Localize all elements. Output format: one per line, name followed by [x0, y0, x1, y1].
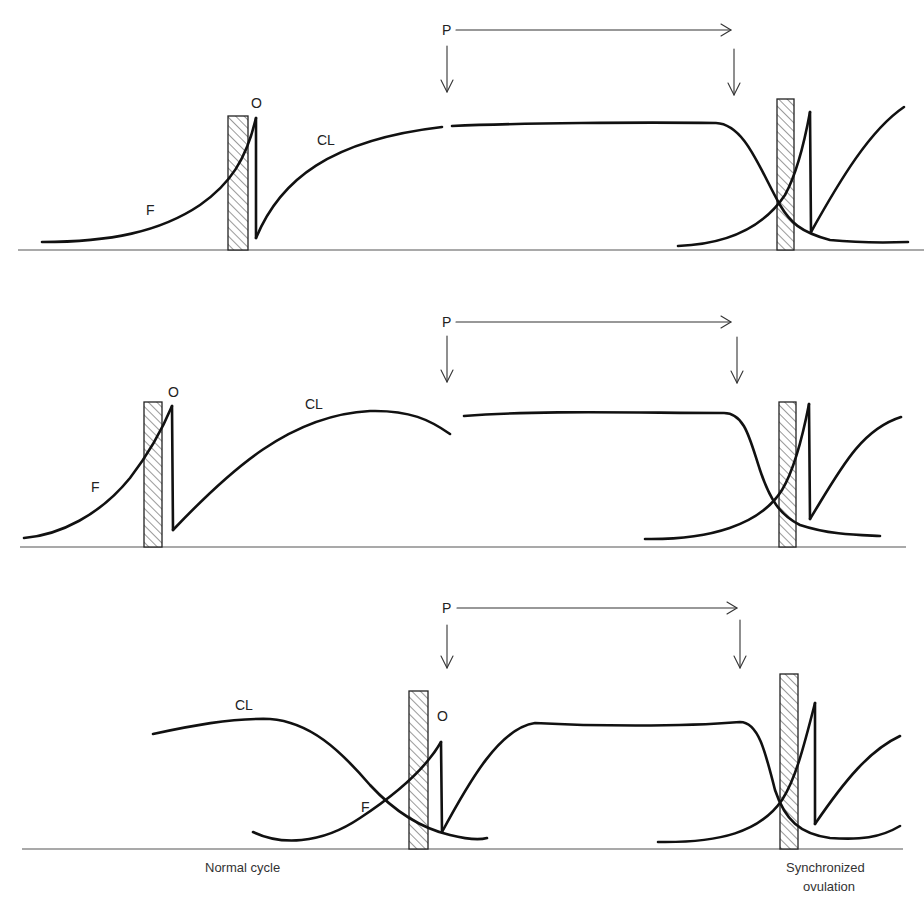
panel-3-o-label: O — [437, 708, 448, 724]
panel-3-new-cl-curve — [815, 736, 900, 824]
panel-3-old-cl-curve — [153, 719, 487, 839]
panel-1-synchronized-ovulation-drop — [810, 112, 811, 232]
panel-2-f-label: F — [91, 479, 100, 495]
synchronized-ovulation-caption-line1: Synchronized — [786, 860, 865, 875]
panel-2-oestrus-bar-1 — [144, 402, 162, 547]
panel-3: P O CL F Normal cycle Synchronized ovula… — [22, 600, 903, 894]
panel-2: P O CL F — [20, 314, 906, 547]
panel-1-f-label: F — [146, 202, 155, 218]
panel-1-cl-curve — [256, 127, 442, 238]
panel-3-p-label: P — [442, 600, 451, 616]
panel-2-new-cl-curve — [810, 417, 901, 519]
panel-2-p-label: P — [442, 314, 451, 330]
panel-1-p-label: P — [442, 22, 451, 38]
ovulation-synchronization-diagram: P O CL F P — [0, 0, 924, 912]
panel-1-oestrus-bar-2 — [777, 99, 794, 250]
panel-2-o-label: O — [168, 384, 179, 400]
panel-2-cl-curve — [173, 411, 450, 530]
panel-2-oestrus-bar-2 — [779, 402, 796, 547]
panel-2-cl-plateau — [464, 412, 880, 536]
panel-1-new-cl-curve — [811, 107, 904, 232]
panel-2-synchronized-ovulation-drop — [809, 404, 810, 519]
panel-2-cl-label: CL — [305, 396, 323, 412]
panel-1-follicle-curve — [42, 118, 256, 242]
panel-3-cl-label: CL — [235, 697, 253, 713]
panel-1: P O CL F — [18, 22, 924, 250]
synchronized-ovulation-caption-line2: ovulation — [803, 879, 855, 894]
panel-3-ovulation-drop — [441, 742, 442, 832]
panel-3-f-label: F — [361, 799, 370, 815]
panel-3-p-treatment-arrows: P — [441, 600, 746, 668]
normal-cycle-caption: Normal cycle — [205, 860, 280, 875]
panel-1-p-treatment-arrows: P — [441, 22, 740, 95]
panel-3-cl-plateau — [442, 722, 900, 839]
panel-1-o-label: O — [251, 95, 262, 111]
panel-2-ovulation-drop — [172, 406, 173, 530]
panel-2-p-treatment-arrows: P — [441, 314, 743, 383]
panel-1-cl-label: CL — [317, 132, 335, 148]
panel-1-oestrus-bar-1 — [228, 116, 248, 250]
